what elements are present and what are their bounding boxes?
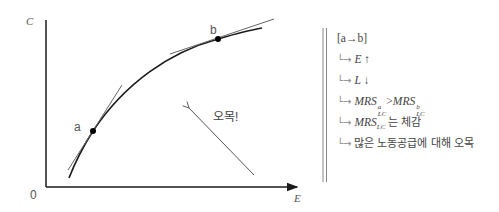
point-a-label: a <box>74 121 81 133</box>
note-row-concave: └→많은 노동공급에 대해 오목 <box>337 135 474 156</box>
bullet-arrow-icon: └→ <box>337 96 351 107</box>
x-axis-label: E <box>294 193 301 204</box>
note-row-l: └→L ↓ <box>337 72 474 93</box>
note-row-mrs-compare: └→MRSaLC>MRSbLC <box>337 93 474 114</box>
notes-panel: [a→b] └→E ↑ └→L ↓ └→MRSaLC>MRSbLC └→MRSL… <box>337 30 474 156</box>
bullet-arrow-icon: └→ <box>337 75 351 86</box>
indifference-curve <box>69 28 262 178</box>
notes-header: [a→b] <box>337 30 474 51</box>
tangent-at-b <box>170 19 274 54</box>
point-b-label: b <box>210 24 217 36</box>
origin-label: 0 <box>30 189 37 201</box>
y-axis-label: C <box>26 16 33 27</box>
point-a <box>90 128 96 134</box>
bullet-arrow-icon: └→ <box>337 54 351 65</box>
concave-label: 오목! <box>213 111 238 123</box>
bullet-arrow-icon: └→ <box>337 117 351 128</box>
note-row-mrs-diminishing: └→MRSLC 는 체감 <box>337 114 474 135</box>
bullet-arrow-icon: └→ <box>337 138 351 149</box>
note-row-e: └→E ↑ <box>337 51 474 72</box>
